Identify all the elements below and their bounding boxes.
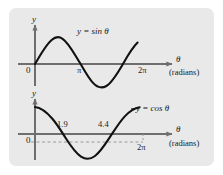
top-chart-y-axis-label: y [32, 15, 36, 24]
bottom-chart-tick-1-9: 1.9 [57, 120, 68, 129]
bottom-chart-y-axis-label: y [32, 89, 36, 98]
sine-curve [35, 37, 138, 87]
top-chart-units-label: (radians) [169, 68, 199, 77]
top-chart-tick-pi: π [77, 66, 81, 75]
top-chart-x-axis-label: θ [176, 55, 180, 64]
bottom-chart-units-label: (radians) [169, 139, 199, 148]
sine-equation-label: y = sin θ [77, 27, 109, 36]
bottom-chart-origin-label: 0 [26, 136, 31, 145]
cosine-curve [35, 107, 140, 159]
top-chart-origin-label: 0 [26, 66, 31, 75]
bottom-chart-tick-2pi: 2π [137, 143, 146, 152]
top-chart-tick-2pi: 2π [138, 66, 147, 75]
bottom-chart-tick-4-4: 4.4 [98, 120, 109, 129]
bottom-chart-x-axis-label: θ [176, 125, 180, 134]
cosine-equation-label: y = cos θ [136, 104, 169, 113]
trig-graphs-figure: y 0 π 2π θ (radians) y = sin θ y 0 1.9 4… [0, 0, 223, 175]
